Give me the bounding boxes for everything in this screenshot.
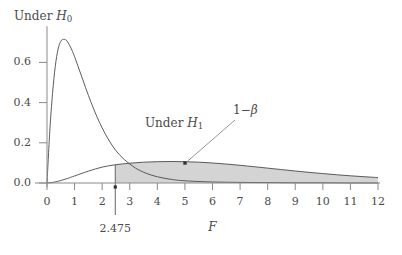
y-axis bbox=[39, 26, 47, 187]
x-axis bbox=[35, 183, 380, 190]
plot-area bbox=[35, 26, 380, 215]
y-axis-ticks bbox=[39, 62, 47, 183]
power-annotation-marker bbox=[183, 161, 186, 164]
y-tick-label: 0.2 bbox=[0, 137, 31, 148]
under-h1-label: Under H1 bbox=[145, 117, 203, 131]
x-axis-ticks bbox=[47, 183, 378, 190]
x-tick-label: 12 bbox=[358, 196, 398, 207]
critical-value-label: 2.475 bbox=[85, 223, 145, 234]
y-tick-label: 0.4 bbox=[0, 97, 31, 108]
y-tick-label: 0.6 bbox=[0, 56, 31, 67]
null-hypothesis-curve bbox=[47, 39, 378, 183]
power-label: 1−β bbox=[233, 104, 258, 116]
y-tick-label: 0.0 bbox=[0, 177, 31, 188]
critical-value-marker bbox=[114, 185, 117, 188]
power-region-fill bbox=[115, 162, 378, 183]
x-axis-label: F bbox=[183, 221, 243, 233]
under-h0-label: Under H0 bbox=[14, 10, 72, 24]
